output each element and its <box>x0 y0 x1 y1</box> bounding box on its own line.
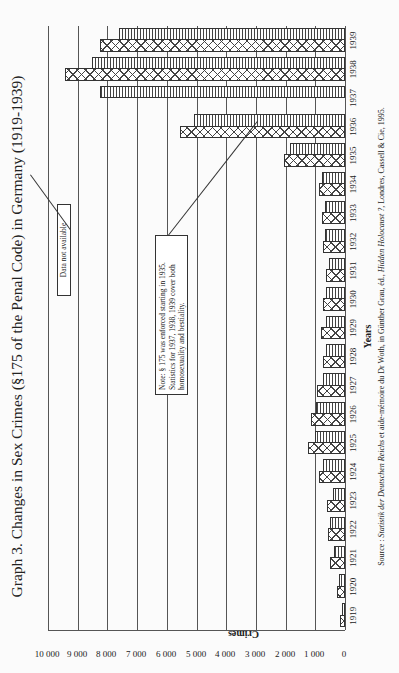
x-tick-label: 1929 <box>348 313 358 343</box>
source-suffix: , Londres, Cassell & Cie, 1995. <box>377 107 386 208</box>
bar-group-1919 <box>48 604 345 627</box>
x-tick-label: 1932 <box>348 227 358 257</box>
bar-vertical <box>323 373 345 385</box>
source-prefix: Source : <box>377 537 386 565</box>
source-mid: et aide-mémoire du Dr Woth, in Günther G… <box>377 272 386 440</box>
bar-group-1932 <box>48 230 345 253</box>
bar-vertical <box>100 86 345 98</box>
bar-vertical <box>194 114 345 126</box>
bar-group-1921 <box>48 547 345 570</box>
bar-vertical <box>325 229 345 241</box>
bar-crosshatch <box>180 126 345 138</box>
x-tick-label: 1922 <box>348 514 358 544</box>
bar-crosshatch <box>308 442 345 454</box>
bar-group-1939 <box>48 29 345 52</box>
bar-crosshatch <box>323 298 345 310</box>
bar-group-1935 <box>48 144 345 167</box>
x-tick-label: 1931 <box>348 255 358 285</box>
bar-vertical <box>119 28 345 40</box>
bar-group-1925 <box>48 432 345 455</box>
bar-group-1926 <box>48 403 345 426</box>
x-tick-label: 1939 <box>348 25 358 55</box>
bar-vertical <box>333 488 345 500</box>
bar-crosshatch <box>337 586 345 598</box>
bar-crosshatch <box>311 413 345 425</box>
bar-group-1929 <box>48 317 345 340</box>
bar-crosshatch <box>284 154 345 166</box>
x-tick-label: 1927 <box>348 371 358 401</box>
source-title-1: Statistik der Deutschen Reichs <box>377 440 386 538</box>
bar-vertical <box>92 57 345 69</box>
bar-group-1938 <box>48 58 345 81</box>
bar-crosshatch <box>323 241 345 253</box>
bar-crosshatch <box>319 471 345 483</box>
x-tick-label: 1921 <box>348 543 358 573</box>
x-tick-label: 1938 <box>348 54 358 84</box>
plot-area: Crimes 01 0002 0003 0004 0005 0006 0007 … <box>48 26 345 631</box>
x-tick-label: 1923 <box>348 486 358 516</box>
bar-group-1933 <box>48 202 345 225</box>
source-citation: Source : Statistik der Deutschen Reichs … <box>377 0 386 673</box>
bar-group-1922 <box>48 518 345 541</box>
bar-vertical <box>339 575 345 587</box>
bar-crosshatch <box>322 212 345 224</box>
bar-group-1924 <box>48 460 345 483</box>
bar-crosshatch <box>317 385 345 397</box>
bar-group-1931 <box>48 259 345 282</box>
bar-crosshatch <box>65 68 345 80</box>
bar-crosshatch <box>327 500 345 512</box>
x-tick-label: 1919 <box>348 601 358 631</box>
bar-crosshatch <box>323 356 345 368</box>
bar-crosshatch <box>321 327 345 339</box>
data-not-available-note: Data not available <box>57 204 71 296</box>
chart-title: Graph 3. Changes in Sex Crimes (§175 of … <box>8 0 26 673</box>
bar-vertical <box>290 143 345 155</box>
x-tick-label: 1936 <box>348 112 358 142</box>
x-tick-label: 1924 <box>348 457 358 487</box>
bar-crosshatch <box>326 269 345 281</box>
source-title-2: Hidden Holocaust ? <box>377 208 386 272</box>
x-tick-label: 1930 <box>348 284 358 314</box>
x-tick-label: 1937 <box>348 83 358 113</box>
gridline <box>345 26 346 630</box>
bar-vertical <box>325 201 345 213</box>
bar-crosshatch <box>340 615 345 627</box>
x-tick-label: 1934 <box>348 169 358 199</box>
bar-vertical <box>316 402 345 414</box>
bar-group-1920 <box>48 576 345 599</box>
bar-group-1927 <box>48 374 345 397</box>
enforcement-note: Note: § 175 was enforced starting in 193… <box>155 235 188 395</box>
bar-group-1936 <box>48 115 345 138</box>
bar-crosshatch <box>100 39 345 51</box>
bar-group-1934 <box>48 173 345 196</box>
bar-group-1928 <box>48 345 345 368</box>
bar-vertical <box>342 603 345 615</box>
bar-vertical <box>326 287 345 299</box>
bar-crosshatch <box>328 528 345 540</box>
bar-vertical <box>326 344 345 356</box>
x-tick-label: 1928 <box>348 342 358 372</box>
y-tick-label: 10 000 <box>27 649 67 659</box>
bar-group-1937 <box>48 87 345 110</box>
bar-crosshatch <box>330 557 345 569</box>
bar-crosshatch <box>319 183 345 195</box>
x-axis-label: Years <box>362 0 373 673</box>
x-tick-label: 1920 <box>348 572 358 602</box>
x-tick-label: 1925 <box>348 428 358 458</box>
x-tick-label: 1935 <box>348 140 358 170</box>
y-axis-label: Crimes <box>228 629 259 640</box>
bar-vertical <box>322 172 345 184</box>
bar-vertical <box>326 316 345 328</box>
x-tick-label: 1933 <box>348 198 358 228</box>
x-tick-label: 1926 <box>348 399 358 429</box>
bar-group-1923 <box>48 489 345 512</box>
rotated-figure: Graph 3. Changes in Sex Crimes (§175 of … <box>0 0 399 673</box>
bar-vertical <box>315 431 345 443</box>
bar-vertical <box>329 258 345 270</box>
bar-group-1930 <box>48 288 345 311</box>
bar-vertical <box>330 517 345 529</box>
bar-vertical <box>334 546 345 558</box>
bar-vertical <box>323 459 345 471</box>
